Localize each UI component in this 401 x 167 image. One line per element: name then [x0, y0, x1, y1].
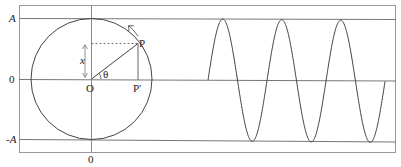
amplitude-line-top — [19, 19, 396, 20]
angle-arc — [99, 73, 101, 79]
zero-line — [19, 80, 396, 82]
label-zero-x: 0 — [88, 153, 94, 165]
label-zero-y: 0 — [9, 73, 15, 85]
label-amplitude-bottom: -A — [6, 133, 17, 145]
label-angle-theta: θ — [103, 68, 108, 80]
label-point-p: P — [139, 37, 145, 49]
label-amplitude-top: A — [8, 12, 16, 24]
frame — [20, 6, 396, 153]
shm-diagram: A 0 -A 0 O P P′ x θ — [0, 0, 401, 167]
rotation-arc — [129, 26, 138, 36]
radius-line — [92, 44, 139, 80]
label-projection-p: P′ — [133, 82, 142, 94]
label-center-o: O — [86, 82, 94, 94]
amplitude-line-bottom — [19, 140, 396, 143]
label-displacement-x: x — [79, 54, 85, 66]
